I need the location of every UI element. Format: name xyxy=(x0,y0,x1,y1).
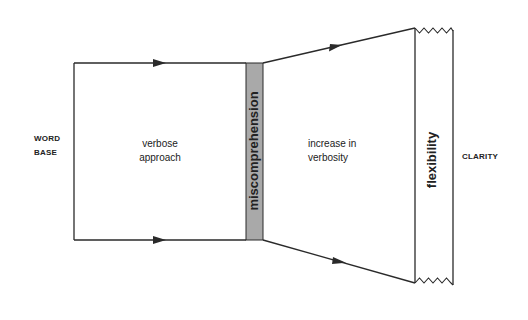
clarity-label: CLARITY xyxy=(462,150,498,164)
verbose-approach-label: verbose approach xyxy=(120,137,200,165)
word-base-line-1: WORD xyxy=(34,132,60,146)
verbose-approach-line-1: verbose xyxy=(120,137,200,151)
zigzag-top xyxy=(415,28,453,33)
arrow-top-right-icon xyxy=(329,44,342,52)
arrow-bottom-right-icon xyxy=(332,257,346,264)
verbose-approach-line-2: approach xyxy=(120,151,200,165)
arrow-top-left-icon xyxy=(153,59,166,67)
diagram-canvas xyxy=(0,0,528,320)
increase-verbosity-line-2: verbosity xyxy=(308,151,394,165)
zigzag-bottom xyxy=(415,278,453,285)
increase-verbosity-line-1: increase in xyxy=(308,137,394,151)
miscomprehension-label: miscomprehension xyxy=(246,91,262,211)
word-base-line-2: BASE xyxy=(34,146,60,160)
flexibility-label: flexibility xyxy=(424,120,440,200)
arrow-bottom-left-icon xyxy=(153,236,166,244)
word-base-label: WORD BASE xyxy=(34,132,60,160)
increase-verbosity-label: increase in verbosity xyxy=(308,137,394,165)
